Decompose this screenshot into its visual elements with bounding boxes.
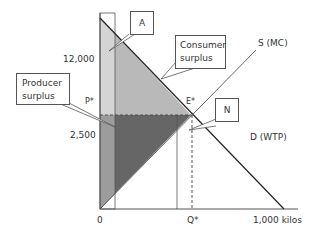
y-tick-2500: 2,500 xyxy=(70,131,96,140)
supply-label: S (MC) xyxy=(258,39,288,48)
supply-demand-diagram xyxy=(0,0,314,238)
x-tick-q-star: Q* xyxy=(187,216,199,225)
callout-consumer-surplus: Consumer surplus xyxy=(175,35,226,69)
consumer-surplus-line2: surplus xyxy=(180,52,221,65)
callout-n-label: N xyxy=(224,105,231,115)
callout-a: A xyxy=(130,11,154,35)
x-tick-max: 1,000 kilos xyxy=(253,216,302,225)
y-tick-p-star: P* xyxy=(85,98,94,106)
callout-producer-surplus: Producer surplus xyxy=(16,73,70,105)
area-a-consumer xyxy=(100,18,115,115)
callout-a-label: A xyxy=(139,18,145,28)
equilibrium-label: E* xyxy=(186,98,195,106)
demand-label: D (WTP) xyxy=(250,133,287,142)
callout-n: N xyxy=(215,98,239,122)
consumer-surplus-line1: Consumer xyxy=(180,39,221,52)
producer-surplus-line1: Producer xyxy=(22,77,64,90)
producer-surplus-line2: surplus xyxy=(22,90,64,103)
y-tick-12000: 12,000 xyxy=(63,55,95,64)
area-a-producer xyxy=(100,115,115,209)
x-tick-origin: 0 xyxy=(97,216,103,225)
callout-n-pointer xyxy=(189,119,216,130)
